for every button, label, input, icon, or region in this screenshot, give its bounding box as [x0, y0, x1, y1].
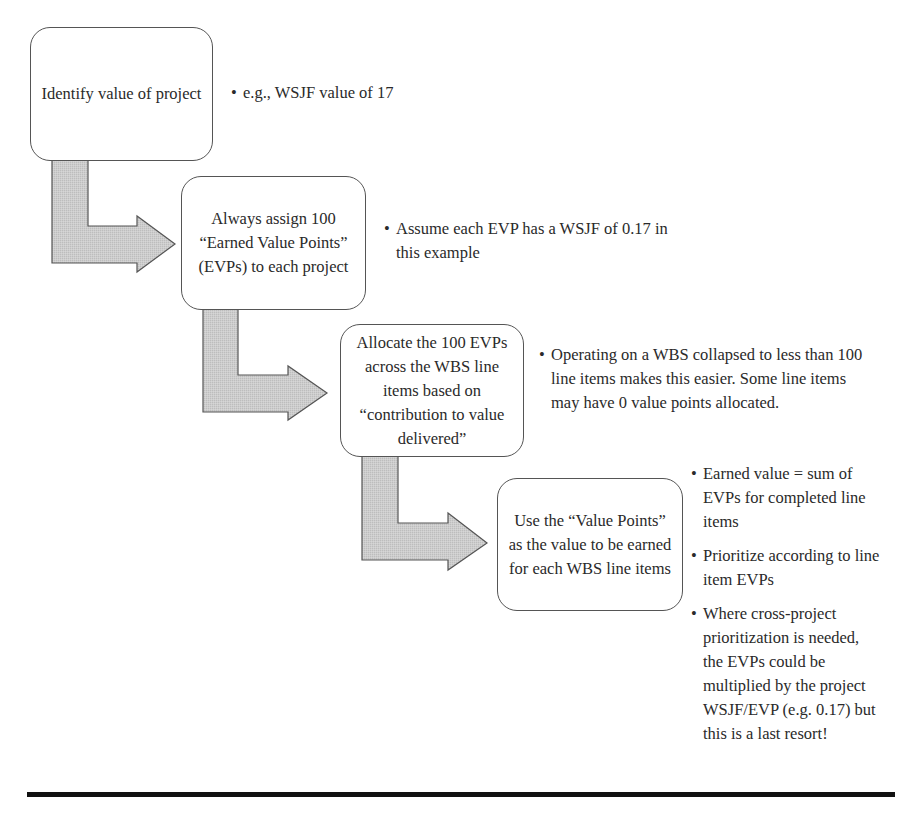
bullet-icon: •: [539, 343, 545, 367]
arrow-step3-to-step4-icon: [362, 456, 487, 570]
step-box-assign-evps: Always assign 100 “Earned Value Points” …: [181, 176, 366, 310]
step-label: Always assign 100 “Earned Value Points” …: [192, 207, 355, 279]
step-notes-identify-value: • e.g., WSJF value of 17: [231, 81, 531, 105]
note-text: Where cross-project prioritization is ne…: [703, 604, 876, 743]
note-item: • Earned value = sum of EVPs for complet…: [691, 462, 881, 534]
bullet-icon: •: [384, 217, 390, 241]
note-text: Operating on a WBS collapsed to less tha…: [551, 345, 862, 412]
bullet-icon: •: [691, 462, 697, 486]
step-label: Use the “Value Points” as the value to b…: [508, 509, 672, 581]
step-label: Allocate the 100 EVPs across the WBS lin…: [351, 331, 513, 451]
note-text: Earned value = sum of EVPs for completed…: [703, 464, 866, 531]
step-label: Identify value of project: [42, 82, 202, 106]
note-item: • Operating on a WBS collapsed to less t…: [539, 343, 869, 415]
arrow-step2-to-step3-icon: [203, 309, 327, 420]
note-text: Prioritize according to line item EVPs: [703, 546, 879, 589]
bullet-icon: •: [231, 81, 237, 105]
bottom-divider-rule: [27, 792, 895, 797]
step-notes-assign-evps: • Assume each EVP has a WSJF of 0.17 in …: [384, 217, 674, 265]
note-item: • Assume each EVP has a WSJF of 0.17 in …: [384, 217, 674, 265]
note-item: • Prioritize according to line item EVPs: [691, 544, 881, 592]
bullet-icon: •: [691, 544, 697, 568]
note-item: • e.g., WSJF value of 17: [231, 81, 531, 105]
note-text: e.g., WSJF value of 17: [243, 83, 393, 102]
step-box-use-value-points: Use the “Value Points” as the value to b…: [497, 478, 683, 611]
step-box-identify-value: Identify value of project: [30, 27, 213, 161]
step-box-allocate-evps: Allocate the 100 EVPs across the WBS lin…: [340, 324, 524, 457]
bullet-icon: •: [691, 602, 697, 626]
arrow-step1-to-step2-icon: [52, 160, 175, 272]
note-item: • Where cross-project prioritization is …: [691, 602, 881, 746]
note-text: Assume each EVP has a WSJF of 0.17 in th…: [396, 219, 668, 262]
step-notes-use-value-points: • Earned value = sum of EVPs for complet…: [691, 462, 881, 746]
step-notes-allocate-evps: • Operating on a WBS collapsed to less t…: [539, 343, 869, 415]
